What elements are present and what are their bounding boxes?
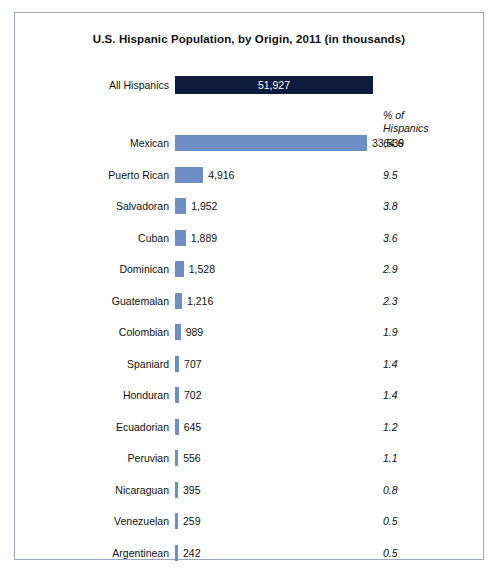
bar-value: 4,916 [208, 165, 234, 185]
row-label: Spaniard [15, 354, 169, 374]
bar-value: 1,528 [189, 259, 215, 279]
percent-value: 1.4 [383, 385, 443, 405]
row-label: Nicaraguan [15, 480, 169, 500]
bar-value: 702 [184, 385, 202, 405]
bar-value: 645 [184, 417, 202, 437]
percent-column-header: % of Hispanics [383, 109, 463, 135]
percent-value: 1.1 [383, 448, 443, 468]
bar-value: 242 [183, 543, 201, 563]
bar [175, 167, 203, 183]
bar-value: 1,889 [191, 228, 217, 248]
percent-value: 1.4 [383, 354, 443, 374]
chart-title: U.S. Hispanic Population, by Origin, 201… [15, 33, 483, 45]
chart-row: Mexican33,53964.6 [15, 133, 483, 153]
chart-row: Puerto Rican4,9169.5 [15, 165, 483, 185]
row-label: Peruvian [15, 448, 169, 468]
bar [175, 419, 179, 435]
bar-value: 556 [183, 448, 201, 468]
bar [175, 450, 178, 466]
percent-value: 0.5 [383, 543, 443, 563]
bar [175, 387, 179, 403]
bar [175, 545, 178, 561]
percent-value: 3.8 [383, 196, 443, 216]
row-label: Colombian [15, 322, 169, 342]
bar [175, 135, 367, 151]
chart-row: Dominican1,5282.9 [15, 259, 483, 279]
percent-value: 3.6 [383, 228, 443, 248]
bar [175, 230, 186, 246]
bar-value-total: 51,927 [175, 76, 373, 94]
percent-value: 2.9 [383, 259, 443, 279]
chart-frame: U.S. Hispanic Population, by Origin, 201… [14, 12, 484, 560]
percent-value: 1.2 [383, 417, 443, 437]
chart-row: Cuban1,8893.6 [15, 228, 483, 248]
row-label: Dominican [15, 259, 169, 279]
bar [175, 482, 178, 498]
percent-value: 1.9 [383, 322, 443, 342]
chart-row: Spaniard7071.4 [15, 354, 483, 374]
row-label: Ecuadorian [15, 417, 169, 437]
percent-header-line1: % of [383, 109, 463, 122]
chart-row: Salvadoran1,9523.8 [15, 196, 483, 216]
bar-value: 1,952 [191, 196, 217, 216]
row-label: Puerto Rican [15, 165, 169, 185]
row-label: Salvadoran [15, 196, 169, 216]
row-label: Argentinean [15, 543, 169, 563]
bar [175, 324, 181, 340]
row-label: Cuban [15, 228, 169, 248]
chart-row: Venezuelan2590.5 [15, 511, 483, 531]
row-label: Honduran [15, 385, 169, 405]
bar [175, 198, 186, 214]
chart-row: Honduran7021.4 [15, 385, 483, 405]
bar [175, 356, 179, 372]
row-label: Mexican [15, 133, 169, 153]
bar [175, 513, 178, 529]
row-label: Venezuelan [15, 511, 169, 531]
percent-value: 9.5 [383, 165, 443, 185]
bar [175, 261, 184, 277]
chart-row: Guatemalan1,2162.3 [15, 291, 483, 311]
row-label: Guatemalan [15, 291, 169, 311]
chart-row: Ecuadorian6451.2 [15, 417, 483, 437]
percent-value: 0.8 [383, 480, 443, 500]
chart-row: Argentinean2420.5 [15, 543, 483, 563]
chart-row: Peruvian5561.1 [15, 448, 483, 468]
chart-row: Nicaraguan3950.8 [15, 480, 483, 500]
bar-value: 259 [183, 511, 201, 531]
percent-value: 0.5 [383, 511, 443, 531]
bar-value: 395 [183, 480, 201, 500]
chart-row: Colombian9891.9 [15, 322, 483, 342]
bar-value: 707 [184, 354, 202, 374]
bar [175, 293, 182, 309]
bar-value: 1,216 [187, 291, 213, 311]
percent-value: 64.6 [383, 133, 443, 153]
row-label-total: All Hispanics [15, 75, 169, 95]
bar-value: 989 [186, 322, 204, 342]
percent-value: 2.3 [383, 291, 443, 311]
chart-row-total: All Hispanics 51,927 [15, 75, 483, 95]
